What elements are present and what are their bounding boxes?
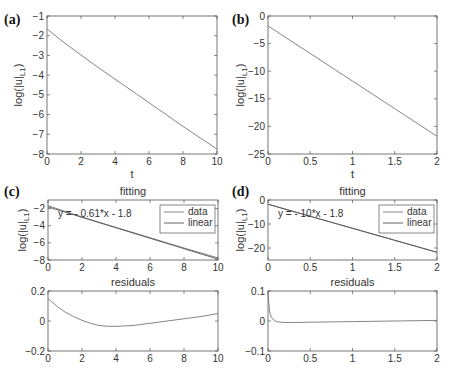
- y-tick-label: −4: [34, 220, 46, 231]
- x-tick-label: 1: [350, 353, 356, 364]
- y-tick-label: −1: [33, 11, 45, 22]
- subplot-title: fitting: [120, 185, 146, 197]
- legend-entry-data: data: [407, 206, 427, 217]
- legend-entry-linear: linear: [407, 217, 432, 228]
- panel-label: (d): [232, 184, 249, 200]
- legend-entry-data: data: [188, 206, 208, 217]
- y-tick-label: −2: [34, 203, 46, 214]
- plot-area: [268, 16, 437, 154]
- x-tick-label: 8: [181, 353, 187, 364]
- x-tick-label: 1.5: [388, 262, 402, 273]
- y-tick-label: 0.1: [251, 286, 265, 297]
- x-tick-label: 6: [147, 353, 153, 364]
- y-tick-label: −8: [33, 149, 45, 160]
- x-tick-label: 4: [112, 156, 118, 167]
- x-tick-label: 0.5: [303, 156, 317, 167]
- y-tick-label: −0.1: [245, 346, 265, 357]
- x-tick-label: 1: [350, 262, 356, 273]
- x-tick-label: 8: [181, 262, 187, 273]
- x-axis-label: t: [130, 168, 133, 180]
- x-tick-label: 0.5: [303, 262, 317, 273]
- x-tick-label: 1.5: [388, 156, 402, 167]
- subplot-title: residuals: [111, 276, 156, 288]
- y-tick-label: −0.2: [25, 346, 45, 357]
- y-tick-label: −7: [33, 129, 45, 140]
- y-tick-label: −6: [34, 237, 46, 248]
- y-axis-label: log(|u|L1): [12, 64, 27, 107]
- x-tick-label: 2: [434, 262, 440, 273]
- legend: datalinear: [379, 205, 434, 233]
- x-tick-label: 2: [79, 353, 85, 364]
- x-tick-label: 0: [45, 353, 51, 364]
- y-tick-label: 0.2: [31, 286, 45, 297]
- y-tick-label: −20: [248, 121, 265, 132]
- y-tick-label: −4: [33, 70, 45, 81]
- y-axis-label: log(|u|L1): [234, 64, 249, 107]
- y-tick-label: −10: [248, 66, 265, 77]
- fit-equation: y = - 10*x - 1.8: [278, 208, 344, 219]
- y-tick-label: −15: [248, 93, 265, 104]
- x-tick-label: 6: [146, 156, 152, 167]
- panel-label: (b): [232, 12, 249, 28]
- x-tick-label: 0.5: [303, 353, 317, 364]
- x-tick-label: 1: [350, 156, 356, 167]
- y-tick-label: −20: [248, 243, 265, 254]
- x-tick-label: 1.5: [388, 353, 402, 364]
- x-axis-label: t: [351, 168, 354, 180]
- chart-panel-1: 00.511.520−5−10−15−20−25tlog(|u|L1)(b): [232, 11, 440, 181]
- x-tick-label: 4: [113, 353, 119, 364]
- x-tick-label: 0: [265, 353, 271, 364]
- fit-equation: y = - 0.61*x - 1.8: [58, 208, 132, 219]
- x-tick-label: 0: [45, 262, 51, 273]
- chart-panel-0: 0246810−1−2−3−4−5−6−7−8tlog(|u|L1)(a): [4, 11, 223, 181]
- y-tick-label: −8: [34, 255, 46, 266]
- y-tick-label: −25: [248, 149, 265, 160]
- y-tick-label: −10: [248, 219, 265, 230]
- plot-area: [47, 16, 217, 154]
- x-tick-label: 0: [265, 262, 271, 273]
- y-tick-label: −5: [254, 38, 266, 49]
- x-tick-label: 2: [79, 262, 85, 273]
- x-tick-label: 0: [265, 156, 271, 167]
- y-tick-label: −2: [33, 30, 45, 41]
- panel-label: (a): [4, 12, 21, 28]
- y-tick-label: 0: [259, 11, 265, 22]
- legend: datalinear: [160, 205, 215, 233]
- y-tick-label: 0: [259, 195, 265, 206]
- y-axis-label: log(|u|L1): [234, 209, 249, 252]
- x-tick-label: 10: [211, 156, 223, 167]
- x-tick-label: 2: [78, 156, 84, 167]
- x-tick-label: 10: [212, 353, 224, 364]
- x-tick-label: 2: [434, 353, 440, 364]
- chart-panel-2: 0246810−2−4−6−8log(|u|L1)fittingy = - 0.…: [4, 184, 224, 273]
- y-tick-label: 0: [39, 316, 45, 327]
- x-tick-label: 8: [180, 156, 186, 167]
- chart-panel-4: 00.511.520−10−20log(|u|L1)fittingy = - 1…: [232, 184, 440, 273]
- y-tick-label: −5: [33, 89, 45, 100]
- figure-canvas: 0246810−1−2−3−4−5−6−7−8tlog(|u|L1)(a)00.…: [0, 0, 454, 375]
- legend-entry-linear: linear: [188, 217, 213, 228]
- y-tick-label: 0: [259, 316, 265, 327]
- y-tick-label: −6: [33, 109, 45, 120]
- panel-label: (c): [4, 184, 20, 200]
- chart-panel-3: 02468100.20−0.2residuals: [25, 276, 224, 364]
- y-axis-label: log(|u|L1): [16, 209, 31, 252]
- x-tick-label: 2: [434, 156, 440, 167]
- chart-panel-5: 00.511.520.10−0.1residuals: [245, 276, 440, 364]
- y-tick-label: −3: [33, 50, 45, 61]
- plot-area: [48, 291, 218, 351]
- x-tick-label: 10: [212, 262, 224, 273]
- x-tick-label: 6: [147, 262, 153, 273]
- x-tick-label: 4: [113, 262, 119, 273]
- x-tick-label: 0: [44, 156, 50, 167]
- subplot-title: residuals: [330, 276, 375, 288]
- subplot-title: fitting: [339, 185, 365, 197]
